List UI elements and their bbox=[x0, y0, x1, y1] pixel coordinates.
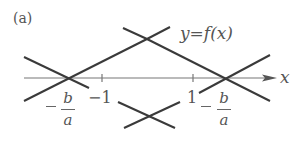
left-root-minus-sign bbox=[46, 106, 56, 107]
line-bottom-ascending bbox=[124, 102, 180, 128]
line-top-right-stub bbox=[147, 27, 170, 39]
x-axis-label: x bbox=[280, 69, 290, 86]
function-graph-diagram: (a) y=f(x) x −1 1 b a b a bbox=[0, 0, 306, 146]
right-root-fraction: b a bbox=[217, 91, 231, 128]
tick-label-minus-one: −1 bbox=[88, 90, 112, 106]
line-bottom-descending bbox=[118, 102, 175, 128]
left-root-denominator: a bbox=[64, 113, 73, 128]
curve-label: y=f(x) bbox=[180, 25, 233, 42]
line-main-descending bbox=[147, 39, 270, 101]
left-root-fraction: b a bbox=[61, 91, 75, 128]
right-root-fraction-bar bbox=[217, 109, 231, 110]
line-top-left-stub bbox=[123, 28, 147, 39]
line-left-ascending bbox=[24, 39, 147, 101]
left-root-numerator: b bbox=[63, 91, 73, 106]
left-root-fraction-bar bbox=[61, 109, 75, 110]
right-root-numerator: b bbox=[219, 91, 229, 106]
right-root-minus-sign bbox=[201, 106, 211, 107]
tick-label-one: 1 bbox=[187, 90, 197, 106]
panel-label: (a) bbox=[13, 11, 32, 25]
right-root-denominator: a bbox=[220, 113, 229, 128]
line-right-ascending bbox=[199, 55, 270, 93]
graph-svg bbox=[0, 0, 306, 146]
